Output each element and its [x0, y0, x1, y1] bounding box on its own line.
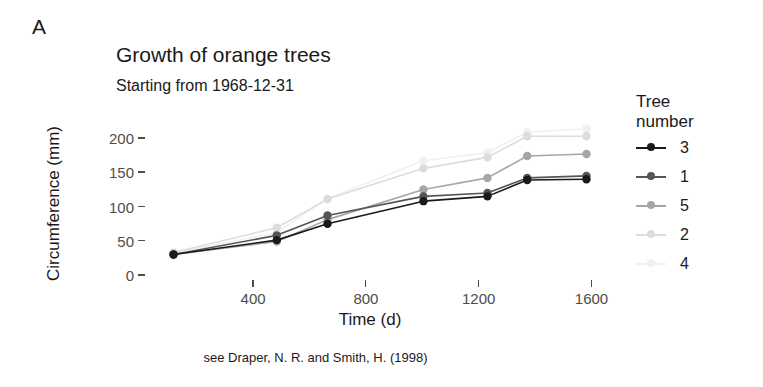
legend-key-dot [647, 143, 655, 151]
data-point [523, 174, 531, 182]
y-tick-label: 200 [82, 131, 134, 146]
data-point [419, 157, 427, 165]
figure-root: A Growth of orange trees Starting from 1… [0, 0, 763, 387]
legend-item[interactable]: 3 [636, 134, 756, 161]
series-line [174, 136, 587, 252]
x-tick-label: 1200 [449, 291, 509, 306]
legend-key-dot [647, 259, 655, 267]
data-point [323, 215, 331, 223]
data-point [169, 249, 177, 257]
y-tick-mark [138, 137, 145, 139]
data-point [582, 172, 590, 180]
data-point [523, 132, 531, 140]
legend: Tree number 31524 [636, 92, 756, 277]
data-point [323, 220, 331, 228]
data-point [483, 189, 491, 197]
legend-key-icon [636, 169, 666, 185]
legend-item-label: 5 [680, 198, 689, 214]
data-point [483, 148, 491, 156]
y-tick-label: 100 [82, 200, 134, 215]
y-tick-label: 150 [82, 165, 134, 180]
y-axis-title: Circumference (mm) [45, 89, 62, 319]
legend-item-label: 4 [680, 256, 689, 272]
y-tick-label: 0 [82, 268, 134, 283]
legend-key-dot [647, 201, 655, 209]
panel-label: A [32, 16, 46, 37]
legend-item[interactable]: 2 [636, 221, 756, 248]
y-tick-mark [138, 240, 145, 242]
data-point [169, 250, 177, 258]
chart-title: Growth of orange trees [116, 44, 331, 65]
legend-key-icon [636, 198, 666, 214]
x-tick-label: 1600 [562, 291, 622, 306]
y-tick-mark [138, 274, 145, 276]
data-point [582, 132, 590, 140]
data-point [169, 250, 177, 258]
x-tick-mark [365, 280, 367, 287]
data-point [273, 231, 281, 239]
data-point [419, 197, 427, 205]
data-point [169, 248, 177, 256]
data-point [323, 195, 331, 203]
data-point [483, 174, 491, 182]
series-line [174, 154, 587, 255]
data-point [419, 192, 427, 200]
legend-key-icon [636, 227, 666, 243]
x-axis-title: Time (d) [140, 311, 600, 328]
legend-title: Tree number [636, 92, 756, 132]
legend-item[interactable]: 1 [636, 163, 756, 190]
data-point [273, 236, 281, 244]
y-tick-label: 50 [82, 234, 134, 249]
data-point [523, 176, 531, 184]
data-point [273, 224, 281, 232]
chart-caption: see Draper, N. R. and Smith, H. (1998) [0, 351, 631, 364]
legend-title-line1: Tree [636, 92, 756, 112]
data-point [323, 211, 331, 219]
y-tick-mark [138, 206, 145, 208]
legend-key-icon [636, 256, 666, 272]
data-point [523, 152, 531, 160]
chart-subtitle: Starting from 1968-12-31 [116, 78, 294, 94]
legend-item-label: 1 [680, 169, 689, 185]
y-tick-mark [138, 171, 145, 173]
data-point [523, 128, 531, 136]
data-point [323, 194, 331, 202]
x-tick-mark [252, 280, 254, 287]
series-line [174, 129, 587, 253]
data-point [483, 192, 491, 200]
data-point [273, 237, 281, 245]
data-point [419, 185, 427, 193]
data-point [169, 250, 177, 258]
x-tick-label: 800 [336, 291, 396, 306]
legend-key-dot [647, 172, 655, 180]
legend-title-line2: number [636, 112, 756, 132]
legend-item-label: 3 [680, 140, 689, 156]
legend-key-icon [636, 140, 666, 156]
data-point [582, 150, 590, 158]
x-tick-mark [478, 280, 480, 287]
legend-item-label: 2 [680, 227, 689, 243]
x-tick-mark [591, 280, 593, 287]
legend-item[interactable]: 4 [636, 250, 756, 277]
series-line [174, 176, 587, 255]
data-point [273, 228, 281, 236]
data-point [483, 153, 491, 161]
data-point [582, 124, 590, 132]
legend-key-dot [647, 230, 655, 238]
data-point [582, 175, 590, 183]
legend-entries: 31524 [636, 134, 756, 277]
series-line [174, 179, 587, 254]
data-point [419, 164, 427, 172]
legend-item[interactable]: 5 [636, 192, 756, 219]
x-tick-label: 400 [223, 291, 283, 306]
